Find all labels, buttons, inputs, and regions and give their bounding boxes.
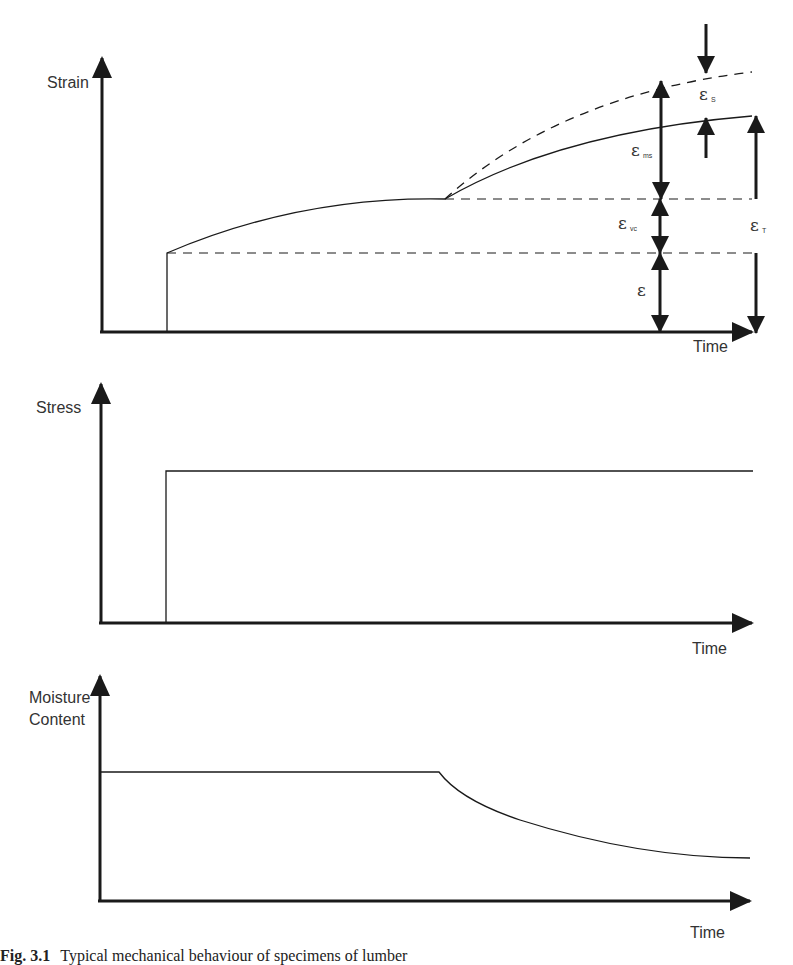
svg-text:vc: vc bbox=[630, 225, 638, 232]
moisture-axis-label-line2: Content bbox=[29, 711, 86, 728]
moisture-time-label: Time bbox=[690, 924, 725, 941]
stress-axis-label: Stress bbox=[36, 399, 81, 416]
svg-text:S: S bbox=[711, 96, 716, 103]
figure-caption-text: Typical mechanical behaviour of specimen… bbox=[60, 947, 407, 964]
eps-s-label: ε bbox=[699, 84, 708, 104]
strain-time-label: Time bbox=[693, 338, 728, 355]
moisture-panel: Moisture Content Time bbox=[29, 676, 750, 941]
stress-curve bbox=[166, 471, 753, 623]
figure-caption: Fig. 3.1Typical mechanical behaviour of … bbox=[0, 947, 407, 965]
svg-text:T: T bbox=[762, 227, 767, 234]
stress-panel: Stress Time bbox=[36, 384, 753, 657]
figure-number: Fig. 3.1 bbox=[0, 947, 50, 964]
eps-ms-label: ε bbox=[631, 140, 640, 160]
moisture-axis-label-line1: Moisture bbox=[29, 689, 90, 706]
eps-label: ε bbox=[637, 280, 646, 300]
strain-axis-label: Strain bbox=[47, 74, 89, 91]
eps-t-label: ε bbox=[750, 215, 759, 235]
stress-time-label: Time bbox=[692, 640, 727, 657]
strain-panel: Strain Time ε ε vc ε ms ε S ε T bbox=[47, 24, 767, 355]
eps-vc-label: ε bbox=[618, 213, 627, 233]
moisture-curve bbox=[100, 772, 750, 858]
svg-text:ms: ms bbox=[643, 152, 653, 159]
strain-curve bbox=[167, 116, 752, 332]
